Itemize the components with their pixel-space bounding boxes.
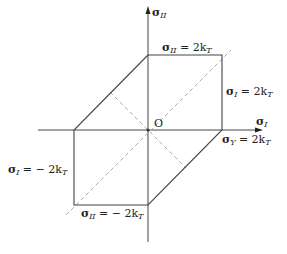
sigma-ii-arrow-icon [146,6,151,14]
label-bottom-edge: σII = − 2kT [81,208,143,221]
origin-label: O [154,118,163,129]
axis-label-sigma-i: σI [256,116,267,129]
label-right-lower: σY = 2kT [222,134,271,147]
label-left-edge: σI = − 2kT [8,164,67,177]
origin-point [147,129,150,132]
axis-label-sigma-ii: σII [152,7,166,20]
label-right-upper: σI = 2kT [226,86,273,99]
label-top-edge: σII = 2kT [162,42,212,55]
yield-locus-diagram [0,0,287,254]
